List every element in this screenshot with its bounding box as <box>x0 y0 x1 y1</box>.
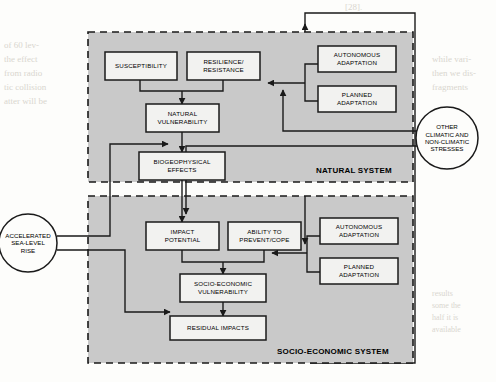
diagram-canvas: [28]. of 60 lev- the effect from radio t… <box>0 0 496 382</box>
node-impact-potential[interactable] <box>146 222 219 250</box>
node-planned-adaptation-natural[interactable] <box>318 86 396 112</box>
node-natural-vulnerability[interactable] <box>146 104 219 132</box>
node-autonomous-adaptation-natural[interactable] <box>318 46 396 72</box>
node-planned-adaptation-socio[interactable] <box>320 258 398 284</box>
node-other-stresses[interactable] <box>416 107 478 169</box>
node-resilience-resistance[interactable] <box>187 52 260 80</box>
node-socio-economic-vulnerability[interactable] <box>180 274 266 302</box>
node-accelerated-sea-level-rise[interactable] <box>0 214 57 272</box>
node-ability-to-prevent-cope[interactable] <box>228 222 301 250</box>
node-biogeophysical-effects[interactable] <box>139 152 225 180</box>
label-socio-economic-system: SOCIO-ECONOMIC SYSTEM <box>277 347 389 356</box>
node-residual-impacts[interactable] <box>170 316 266 340</box>
node-autonomous-adaptation-socio[interactable] <box>320 218 398 244</box>
diagram-graphics <box>0 0 496 382</box>
label-natural-system: NATURAL SYSTEM <box>316 166 392 175</box>
node-susceptibility[interactable] <box>105 52 177 80</box>
